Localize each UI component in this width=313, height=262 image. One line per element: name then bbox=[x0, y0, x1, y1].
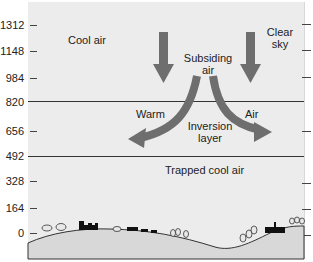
inversion-line1: Inversion bbox=[180, 120, 240, 132]
warm-label: Warm bbox=[136, 108, 165, 120]
subsiding-line2: air bbox=[178, 64, 238, 76]
cool-air-label: Cool air bbox=[68, 34, 106, 46]
air-label: Air bbox=[245, 108, 258, 120]
clear-sky-label: Clear sky bbox=[262, 26, 298, 50]
subsiding-line1: Subsiding bbox=[178, 52, 238, 64]
inversion-layer-label: Inversion layer bbox=[180, 120, 240, 144]
subsiding-air-label: Subsiding air bbox=[178, 52, 238, 76]
ground-terrain bbox=[28, 226, 304, 259]
trapped-cool-air-label: Trapped cool air bbox=[165, 164, 244, 176]
clear-sky-line2: sky bbox=[262, 38, 298, 50]
inversion-line2: layer bbox=[180, 132, 240, 144]
clear-sky-line1: Clear bbox=[262, 26, 298, 38]
